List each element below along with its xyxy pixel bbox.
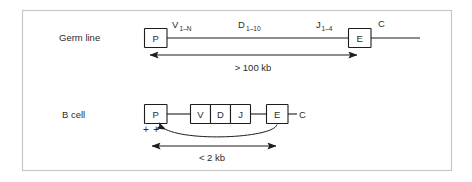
bcell-d-label: D xyxy=(217,109,224,120)
bcell-activation-marks: + + xyxy=(143,124,160,135)
bcell-promoter-label: P xyxy=(153,109,159,120)
germline-enhancer-box: E xyxy=(349,29,372,48)
row-label-germ-line: Germ line xyxy=(59,32,100,43)
germline-constant-label: C xyxy=(378,18,385,29)
germline-promoter-label: P xyxy=(153,33,159,44)
bcell-enhancer-box: E xyxy=(267,105,289,124)
germline-enhancer-label: E xyxy=(357,33,363,44)
gene-rearrangement-diagram: Germ line P E V 1–N D 1–10 J 1–4 xyxy=(0,0,472,182)
germline-j-letter: J xyxy=(316,19,321,30)
bcell-d-box: D xyxy=(211,105,231,124)
germline-v-subscript: 1–N xyxy=(180,25,192,32)
bcell-v-label: V xyxy=(197,109,204,120)
germline-j-segment-label: J 1–4 xyxy=(316,19,333,32)
germline-d-segment-label: D 1–10 xyxy=(238,19,261,32)
germline-v-segment-label: V 1–N xyxy=(172,19,192,32)
germline-j-subscript: 1–4 xyxy=(322,25,333,32)
bcell-constant-label: C xyxy=(299,109,306,120)
germline-d-letter: D xyxy=(238,19,245,30)
row-label-b-cell: B cell xyxy=(62,109,85,120)
bcell-distance-label: < 2 kb xyxy=(199,152,225,163)
germline-promoter-box: P xyxy=(145,29,168,48)
bcell-j-box: J xyxy=(231,105,251,124)
bcell-promoter-box: P xyxy=(145,105,168,124)
germline-v-letter: V xyxy=(172,19,179,30)
germline-distance-label: > 100 kb xyxy=(235,62,272,73)
enhancer-to-promoter-arc xyxy=(166,125,277,137)
bcell-enhancer-label: E xyxy=(274,109,280,120)
figure-root: Germ line P E V 1–N D 1–10 J 1–4 xyxy=(0,0,472,182)
germline-d-subscript: 1–10 xyxy=(246,25,261,32)
bcell-j-label: J xyxy=(238,109,243,120)
bcell-v-box: V xyxy=(191,105,211,124)
